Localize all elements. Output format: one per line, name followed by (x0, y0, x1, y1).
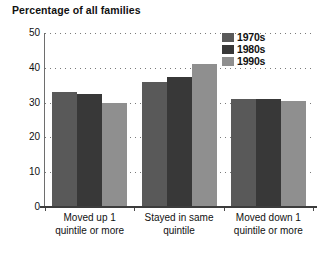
x-axis-group-label-line: Moved down 1 (236, 212, 301, 223)
legend-label: 1970s (237, 32, 265, 43)
legend-swatch (222, 33, 234, 42)
y-axis-tick-label: 50 (4, 28, 40, 38)
bar (231, 99, 256, 207)
y-axis-labels: 01020304050 (0, 0, 40, 257)
legend-item: 1990s (222, 56, 282, 67)
x-axis-line (40, 206, 317, 208)
legend-swatch (222, 57, 234, 66)
y-axis-tick-label: 30 (4, 98, 40, 108)
x-axis-tick (134, 208, 135, 211)
x-axis-group-label-line: quintile or more (224, 225, 313, 238)
bar (102, 103, 127, 207)
legend-item: 1970s (222, 32, 282, 43)
chart-figure: Percentage of all families 01020304050 M… (0, 0, 321, 257)
legend-label: 1980s (237, 44, 265, 55)
y-axis-tick-label: 10 (4, 167, 40, 177)
x-axis-group-label: Moved down 1quintile or more (224, 212, 313, 237)
y-axis-tick-label: 40 (4, 63, 40, 73)
bar (77, 94, 102, 207)
bar (142, 82, 167, 207)
bar (52, 92, 77, 207)
bar (192, 64, 217, 207)
bar (167, 77, 192, 208)
x-axis-tick (224, 208, 225, 211)
x-axis-group-label-line: Moved up 1 (64, 212, 116, 223)
legend-swatch (222, 45, 234, 54)
y-axis-tick-label: 20 (4, 132, 40, 142)
x-axis-group-label-line: Stayed in same (145, 212, 214, 223)
bar (256, 99, 281, 207)
legend-label: 1990s (237, 56, 265, 67)
y-axis-tick-label: 0 (4, 202, 40, 212)
x-axis-group-label: Stayed in samequintile (134, 212, 223, 237)
x-axis-group-label-line: quintile or more (45, 225, 134, 238)
x-axis-tick (313, 208, 314, 211)
bar (281, 101, 306, 207)
chart-legend: 1970s1980s1990s (222, 32, 282, 68)
x-axis-group-label: Moved up 1quintile or more (45, 212, 134, 237)
x-axis-tick (45, 208, 46, 211)
x-axis-group-label-line: quintile (134, 225, 223, 238)
legend-item: 1980s (222, 44, 282, 55)
